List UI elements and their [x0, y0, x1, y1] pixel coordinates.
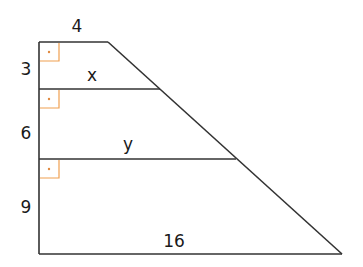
trapezoid-diagram: 4 3 x 6 y 9 16 [0, 0, 363, 267]
label-left-top: 3 [21, 59, 32, 79]
label-segment-y: y [123, 134, 133, 154]
label-left-bottom: 9 [21, 197, 32, 217]
right-angle-marker-icon [40, 43, 59, 61]
right-angle-marker-icon [40, 90, 59, 108]
right-angle-marker-icon [40, 160, 59, 178]
slanted-edge [108, 42, 342, 254]
label-left-middle: 6 [21, 123, 32, 143]
label-segment-x: x [87, 65, 97, 85]
label-bottom: 16 [163, 231, 185, 251]
label-top: 4 [72, 16, 83, 36]
